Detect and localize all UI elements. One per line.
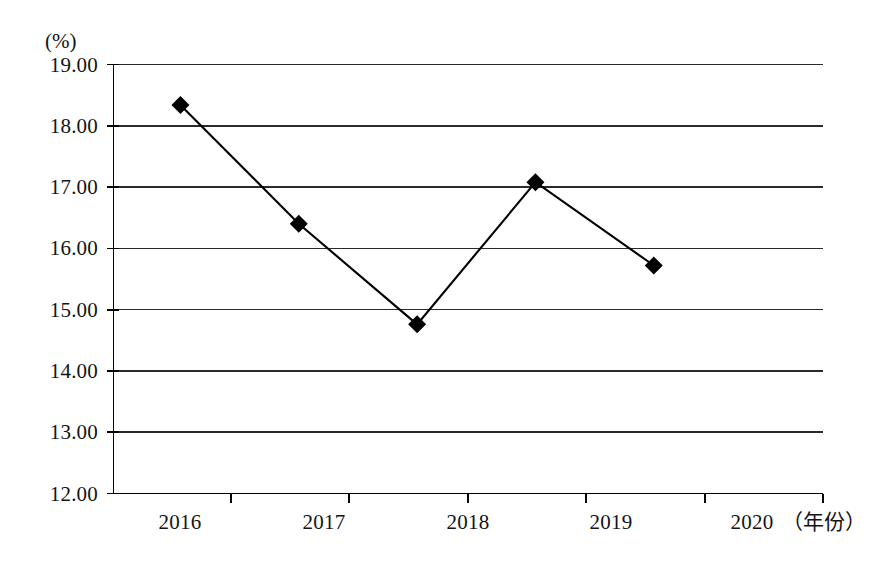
y-tick-label-15: 15.00 <box>8 299 98 320</box>
y-tick-label-14: 14.00 <box>8 360 98 381</box>
y-tick-label-18: 18.00 <box>8 115 98 136</box>
y-tick-label-13: 13.00 <box>8 422 98 443</box>
x-tick-label-2020: 2020 <box>731 512 774 533</box>
chart-canvas <box>0 0 877 569</box>
y-tick-label-16: 16.00 <box>8 238 98 259</box>
y-tick-label-12: 12.00 <box>8 483 98 504</box>
x-tick-label-2016: 2016 <box>159 512 202 533</box>
x-tick-label-2019: 2019 <box>590 512 633 533</box>
y-tick-label-17: 17.00 <box>8 177 98 198</box>
x-axis-name-label: （年份） <box>782 512 866 533</box>
y-tick-label-19: 19.00 <box>8 54 98 75</box>
x-tick-label-2017: 2017 <box>303 512 346 533</box>
line-chart: (%) 19.00 18.00 17.00 16.00 15.00 14.00 … <box>0 0 877 569</box>
gridlines <box>113 65 823 433</box>
x-axis-ticks <box>231 494 823 504</box>
y-axis-unit-label: (%) <box>45 31 76 52</box>
data-point-2020 <box>645 257 663 275</box>
data-markers <box>171 96 662 333</box>
x-tick-label-2018: 2018 <box>447 512 490 533</box>
data-line-series-1 <box>180 105 653 325</box>
